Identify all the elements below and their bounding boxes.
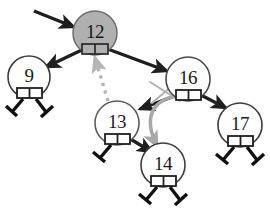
edge-12-to-16 (105, 48, 167, 71)
node-value-9: 9 (25, 65, 34, 86)
null-marker-9-left (6, 99, 23, 116)
node-value-13: 13 (108, 111, 126, 132)
tree-node-12[interactable]: 12 (73, 11, 117, 55)
annotation-dashed-successor-arrow (95, 58, 108, 101)
node-pointer-box-12 (82, 44, 108, 54)
node-value-17: 17 (231, 113, 249, 134)
node-pointer-box-13 (105, 134, 130, 144)
tree-node-17[interactable]: 17 (216, 103, 264, 165)
node-pointer-box-14 (151, 176, 176, 186)
bst-diagram-canvas: 12 9 16 (0, 0, 270, 212)
edge-12-to-9 (46, 48, 86, 67)
tree-node-14[interactable]: 14 (139, 143, 187, 205)
diagram-svg: 12 9 16 (0, 0, 270, 212)
tree-node-16[interactable]: 16 (166, 57, 210, 101)
tree-node-13[interactable]: 13 (93, 101, 139, 162)
node-value-12: 12 (86, 21, 104, 42)
node-pointer-box-17 (228, 136, 253, 146)
edge-root-pointer-to-12 (34, 11, 74, 27)
null-marker-9-right (36, 99, 53, 117)
null-marker-13-left (93, 145, 111, 162)
node-pointer-box-16 (176, 90, 201, 100)
node-value-14: 14 (154, 153, 173, 174)
tree-node-9[interactable]: 9 (6, 56, 53, 117)
null-marker-14-right (170, 187, 187, 205)
null-marker-17-right (247, 147, 264, 165)
null-marker-17-left (216, 147, 234, 164)
null-marker-14-left (139, 187, 157, 204)
node-value-16: 16 (179, 67, 197, 88)
node-pointer-box-9 (17, 88, 42, 98)
